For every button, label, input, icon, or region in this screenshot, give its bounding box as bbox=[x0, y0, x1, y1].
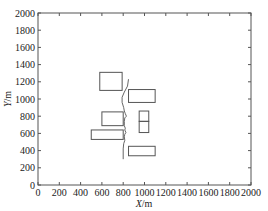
x-tick-label: 2000 bbox=[241, 187, 261, 198]
y-tick-label: 1200 bbox=[15, 76, 35, 87]
x-axis-ticks: 0200400600800100012001400160018002000 bbox=[36, 13, 262, 198]
y-tick-label: 800 bbox=[20, 111, 35, 122]
x-tick-label: 0 bbox=[36, 187, 41, 198]
y-axis-ticks: 0200400600800100012001400160018002000 bbox=[15, 8, 251, 191]
x-tick-label: 1200 bbox=[156, 187, 176, 198]
x-tick-label: 400 bbox=[73, 187, 88, 198]
y-tick-label: 1800 bbox=[15, 25, 35, 36]
y-tick-label: 1000 bbox=[15, 94, 35, 105]
y-tick-label: 1600 bbox=[15, 42, 35, 53]
plot-frame bbox=[38, 13, 251, 185]
y-tick-label: 2000 bbox=[15, 8, 35, 19]
block-2 bbox=[129, 90, 156, 103]
x-tick-label: 1600 bbox=[198, 187, 218, 198]
plot-area bbox=[38, 13, 251, 185]
chart-shapes bbox=[91, 72, 155, 159]
y-tick-label: 400 bbox=[20, 145, 35, 156]
block-1 bbox=[100, 72, 122, 90]
x-tick-label: 600 bbox=[94, 187, 109, 198]
x-tick-label: 800 bbox=[116, 187, 131, 198]
y-tick-label: 0 bbox=[30, 180, 35, 191]
x-axis-label: X/m bbox=[135, 198, 153, 209]
block-6 bbox=[91, 130, 123, 139]
block-5 bbox=[139, 121, 149, 132]
x-tick-label: 1800 bbox=[220, 187, 240, 198]
block-4 bbox=[139, 111, 149, 121]
block-3 bbox=[102, 112, 123, 126]
y-tick-label: 1400 bbox=[15, 59, 35, 70]
y-axis-label: Y/m bbox=[2, 91, 13, 107]
y-tick-label: 600 bbox=[20, 128, 35, 139]
x-tick-label: 200 bbox=[52, 187, 67, 198]
block-7 bbox=[129, 146, 156, 155]
chart: 0200400600800100012001400160018002000 02… bbox=[0, 0, 268, 211]
x-tick-label: 1000 bbox=[135, 187, 155, 198]
x-tick-label: 1400 bbox=[177, 187, 197, 198]
y-tick-label: 200 bbox=[20, 162, 35, 173]
